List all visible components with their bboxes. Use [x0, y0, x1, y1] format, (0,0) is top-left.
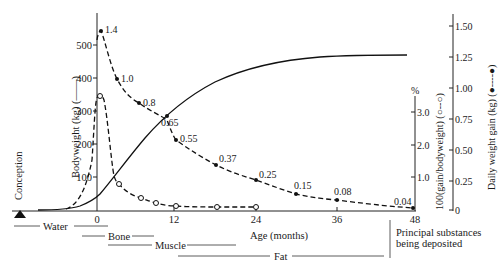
phase-bars: [14, 220, 390, 258]
point-label: 0.15: [294, 180, 312, 191]
tick-label: 0.75: [455, 114, 473, 125]
y-axis-title-daily-gain: Daily weight gain (kg) (●----●): [486, 65, 498, 190]
daily-gain-points: [99, 29, 415, 210]
tick-label: 500: [76, 40, 92, 51]
chart-canvas: 100 200 300 400 500 0 12 24 36 48 Age (m…: [0, 0, 502, 273]
point-label: 0.55: [180, 133, 198, 144]
tick-label: 36: [332, 214, 343, 225]
y-axis-title-bodyweight: Bodyweight (kg) (——): [70, 75, 82, 178]
phase-label-water: Water: [43, 221, 68, 232]
percent-unit-label: %: [411, 85, 419, 96]
tick-label: 0: [455, 205, 460, 216]
y-axis-title-percent: 100(gain/bodyweight) (○--○): [434, 93, 446, 210]
deposition-label-line1: Principal substances: [396, 227, 481, 238]
point-label: 0.25: [259, 169, 277, 180]
tick-label: 1.00: [455, 83, 473, 94]
tick-label: 0: [94, 214, 99, 225]
point-label: 0.37: [219, 153, 237, 164]
tick-label: 1.25: [455, 52, 473, 63]
x-axis-title: Age (months): [250, 230, 309, 242]
y-ticks-percent: [411, 112, 415, 177]
phase-label-fat: Fat: [274, 251, 288, 262]
tick-label: 0.50: [455, 145, 473, 156]
tick-label: 0.25: [455, 176, 473, 187]
tick-label: 1.0: [417, 172, 430, 183]
point-label: 0.8: [143, 97, 156, 108]
point-label: 0.08: [334, 186, 352, 197]
point-label: 1.0: [121, 73, 134, 84]
tick-label: 12: [169, 214, 180, 225]
tick-label: 1.50: [455, 21, 473, 32]
deposition-label-line2: being deposited: [396, 238, 463, 249]
tick-label: 3.0: [417, 107, 430, 118]
percent-points: [98, 94, 259, 210]
point-label: 0.04: [394, 196, 412, 207]
point-label: 0.65: [161, 117, 179, 128]
phase-label-muscle: Muscle: [155, 240, 186, 251]
tick-label: 2.0: [417, 140, 430, 151]
conception-label: Conception: [13, 151, 24, 200]
tick-label: 24: [251, 214, 262, 225]
phase-label-bone: Bone: [108, 231, 131, 242]
point-label: 1.4: [105, 24, 118, 35]
y-ticks-daily-gain: [449, 26, 453, 210]
tick-label: 48: [410, 214, 421, 225]
